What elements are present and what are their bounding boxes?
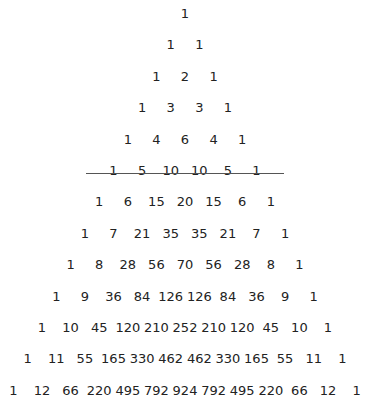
triangle-entry: 84 bbox=[220, 287, 237, 307]
triangle-entry: 1 bbox=[209, 67, 217, 87]
triangle-entry: 55 bbox=[77, 349, 94, 369]
triangle-entry: 330 bbox=[130, 349, 155, 369]
triangle-entry: 6 bbox=[238, 192, 246, 212]
triangle-entry: 55 bbox=[277, 349, 294, 369]
triangle-entry: 1 bbox=[338, 349, 346, 369]
triangle-entry: 4 bbox=[209, 130, 217, 150]
triangle-entry: 792 bbox=[201, 381, 226, 399]
triangle-entry: 210 bbox=[144, 318, 169, 338]
triangle-entry: 1 bbox=[310, 287, 318, 307]
triangle-entry: 10 bbox=[62, 318, 79, 338]
triangle-entry: 1 bbox=[38, 318, 46, 338]
triangle-entry: 28 bbox=[120, 255, 137, 275]
triangle-entry: 11 bbox=[305, 349, 322, 369]
triangle-entry: 9 bbox=[81, 287, 89, 307]
triangle-row: 15101051 bbox=[0, 161, 374, 181]
triangle-entry: 1 bbox=[181, 4, 189, 24]
triangle-entry: 495 bbox=[115, 381, 140, 399]
triangle-row: 14641 bbox=[0, 130, 374, 150]
triangle-entry: 21 bbox=[220, 224, 237, 244]
triangle-row: 1104512021025221012045101 bbox=[0, 318, 374, 338]
triangle-entry: 6 bbox=[124, 192, 132, 212]
triangle-entry: 21 bbox=[134, 224, 151, 244]
triangle-entry: 126 bbox=[158, 287, 183, 307]
triangle-entry: 66 bbox=[62, 381, 79, 399]
triangle-entry: 15 bbox=[205, 192, 222, 212]
triangle-entry: 12 bbox=[320, 381, 337, 399]
triangle-entry: 1 bbox=[224, 98, 232, 118]
triangle-entry: 1 bbox=[124, 130, 132, 150]
triangle-entry: 1 bbox=[138, 98, 146, 118]
triangle-entry: 1 bbox=[352, 381, 360, 399]
triangle-entry: 35 bbox=[191, 224, 208, 244]
triangle-entry: 220 bbox=[258, 381, 283, 399]
triangle-entry: 792 bbox=[144, 381, 169, 399]
row-underline bbox=[86, 173, 284, 174]
triangle-entry: 330 bbox=[215, 349, 240, 369]
triangle-entry: 3 bbox=[195, 98, 203, 118]
triangle-entry: 1 bbox=[167, 35, 175, 55]
triangle-row: 1331 bbox=[0, 98, 374, 118]
triangle-entry: 165 bbox=[101, 349, 126, 369]
triangle-entry: 1 bbox=[281, 224, 289, 244]
triangle-entry: 210 bbox=[201, 318, 226, 338]
triangle-row: 121 bbox=[0, 67, 374, 87]
triangle-entry: 8 bbox=[95, 255, 103, 275]
triangle-entry: 70 bbox=[177, 255, 194, 275]
triangle-entry: 1 bbox=[195, 35, 203, 55]
triangle-entry: 1 bbox=[52, 287, 60, 307]
triangle-row: 18285670562881 bbox=[0, 255, 374, 275]
triangle-row: 1 bbox=[0, 4, 374, 24]
triangle-row: 11 bbox=[0, 35, 374, 55]
triangle-entry: 462 bbox=[187, 349, 212, 369]
triangle-entry: 12 bbox=[34, 381, 51, 399]
triangle-entry: 15 bbox=[148, 192, 165, 212]
triangle-entry: 120 bbox=[230, 318, 255, 338]
triangle-row: 1615201561 bbox=[0, 192, 374, 212]
triangle-entry: 924 bbox=[173, 381, 198, 399]
triangle-entry: 126 bbox=[187, 287, 212, 307]
triangle-entry: 1 bbox=[95, 192, 103, 212]
triangle-entry: 120 bbox=[115, 318, 140, 338]
triangle-entry: 8 bbox=[267, 255, 275, 275]
triangle-entry: 10 bbox=[291, 318, 308, 338]
triangle-entry: 1 bbox=[24, 349, 32, 369]
triangle-entry: 1 bbox=[324, 318, 332, 338]
triangle-entry: 165 bbox=[244, 349, 269, 369]
triangle-entry: 7 bbox=[109, 224, 117, 244]
triangle-entry: 45 bbox=[91, 318, 108, 338]
triangle-entry: 5 bbox=[138, 161, 146, 181]
triangle-entry: 36 bbox=[248, 287, 265, 307]
triangle-entry: 35 bbox=[162, 224, 179, 244]
triangle-entry: 66 bbox=[291, 381, 308, 399]
triangle-row: 193684126126843691 bbox=[0, 287, 374, 307]
triangle-entry: 11 bbox=[48, 349, 65, 369]
triangle-entry: 1 bbox=[238, 130, 246, 150]
triangle-entry: 9 bbox=[281, 287, 289, 307]
triangle-entry: 1 bbox=[81, 224, 89, 244]
triangle-entry: 28 bbox=[234, 255, 251, 275]
triangle-entry: 462 bbox=[158, 349, 183, 369]
triangle-entry: 1 bbox=[295, 255, 303, 275]
triangle-entry: 10 bbox=[162, 161, 179, 181]
triangle-row: 1126622049579292479249522066121 bbox=[0, 381, 374, 399]
triangle-entry: 20 bbox=[177, 192, 194, 212]
triangle-entry: 84 bbox=[134, 287, 151, 307]
triangle-entry: 1 bbox=[152, 67, 160, 87]
triangle-entry: 495 bbox=[230, 381, 255, 399]
triangle-entry: 4 bbox=[152, 130, 160, 150]
triangle-entry: 6 bbox=[181, 130, 189, 150]
triangle-entry: 56 bbox=[205, 255, 222, 275]
triangle-entry: 1 bbox=[252, 161, 260, 181]
triangle-entry: 1 bbox=[66, 255, 74, 275]
triangle-entry: 36 bbox=[105, 287, 122, 307]
triangle-entry: 220 bbox=[87, 381, 112, 399]
triangle-row: 172135352171 bbox=[0, 224, 374, 244]
triangle-entry: 45 bbox=[263, 318, 280, 338]
triangle-entry: 56 bbox=[148, 255, 165, 275]
triangle-entry: 7 bbox=[252, 224, 260, 244]
triangle-entry: 252 bbox=[173, 318, 198, 338]
triangle-entry: 1 bbox=[267, 192, 275, 212]
triangle-entry: 5 bbox=[224, 161, 232, 181]
triangle-entry: 10 bbox=[191, 161, 208, 181]
